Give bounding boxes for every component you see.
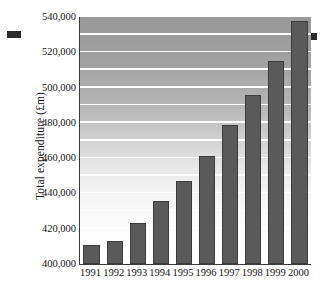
scan-artifact-left-mark: [7, 31, 21, 38]
bar: [153, 201, 169, 264]
x-axis-tick-label: 2000: [287, 267, 310, 279]
plot-area: [79, 17, 311, 265]
x-axis-tick-label: 1992: [102, 267, 125, 279]
bar: [130, 223, 146, 264]
y-axis-tick-label: 480,000: [42, 118, 76, 128]
bar: [291, 21, 307, 264]
x-axis-tick-label: 1994: [148, 267, 171, 279]
y-axis-tick-label: 400,000: [42, 259, 76, 269]
bar-chart: Total expenditure (£m) 400,000420,000440…: [0, 0, 320, 296]
bar: [268, 61, 284, 264]
x-axis-tick-label: 1991: [79, 267, 102, 279]
x-axis-tick-label: 1996: [195, 267, 218, 279]
bar: [245, 95, 261, 264]
x-axis-tick-label: 1993: [125, 267, 148, 279]
x-axis-tick-label: 1995: [171, 267, 194, 279]
x-axis-tick-label: 1997: [218, 267, 241, 279]
bar: [199, 156, 215, 264]
y-axis-tick-label: 440,000: [42, 188, 76, 198]
bar: [83, 245, 99, 264]
x-axis-tick-labels: 1991199219931994199519961997199819992000: [79, 267, 310, 285]
bar: [176, 181, 192, 264]
y-axis-tick-label: 460,000: [42, 153, 76, 163]
y-axis-tick-label: 500,000: [42, 83, 76, 93]
y-axis-tick-labels: 400,000420,000440,000460,000480,000500,0…: [26, 0, 76, 296]
bar: [222, 125, 238, 264]
x-axis-tick-label: 1999: [264, 267, 287, 279]
y-axis-tick-label: 540,000: [42, 12, 76, 22]
bar: [107, 241, 123, 264]
x-axis-tick-label: 1998: [241, 267, 264, 279]
y-axis-tick-label: 520,000: [42, 47, 76, 57]
bars-group: [80, 17, 311, 264]
y-axis-tick-label: 420,000: [42, 224, 76, 234]
